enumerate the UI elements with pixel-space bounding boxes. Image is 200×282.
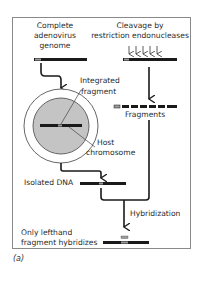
hybridization-result-label: Only lefthand fragment hybridizes	[21, 228, 97, 247]
isolated-dna-label: Isolated DNA	[24, 178, 74, 187]
complete-genome-label: Complete adenovirus genome	[34, 21, 76, 50]
integration-arrow	[41, 63, 61, 88]
hybridization-result-label-line2: fragment hybridizes	[21, 238, 97, 247]
restriction-fragments	[114, 105, 177, 108]
complete-genome-label-line2: adenovirus	[34, 31, 76, 40]
complete-genome-label-line3: genome	[39, 41, 70, 50]
integrated-fragment-label: Integrated fragment	[80, 76, 120, 96]
isolated-dna-bar	[80, 182, 126, 185]
hybridization-result-label-line1: Only lefthand	[21, 228, 72, 237]
cleavage-label-line1: Cleavage by	[116, 21, 164, 30]
adenovirus-genome-bar	[34, 58, 87, 61]
host-chromosome-label-line1: Host	[97, 138, 114, 147]
hybridized-dna-bar	[103, 236, 149, 244]
integrated-fragment-segment	[58, 125, 62, 127]
isolated-dna-to-hybridization-line	[101, 188, 124, 200]
integrated-fragment-label-line2: fragment	[81, 87, 116, 96]
fragments-label: Fragments	[125, 110, 165, 119]
cleavage-label-line2: restriction endonucleases	[91, 31, 189, 40]
cleaved-genome-bar	[123, 58, 177, 61]
figure-caption: (a)	[13, 254, 24, 263]
cleavage-label: Cleavage by restriction endonucleases	[91, 21, 189, 40]
restriction-site-arrows	[129, 46, 157, 54]
complete-genome-label-line1: Complete	[37, 21, 74, 30]
integrated-fragment-label-line1: Integrated	[80, 76, 120, 85]
fragments-to-hybridization-line	[124, 120, 149, 200]
host-chromosome-label-line2: chromosome	[86, 148, 136, 157]
hybridization-label: Hybridization	[130, 209, 181, 218]
isolation-arrow	[61, 163, 101, 178]
adenovirus-hybridization-diagram: Complete adenovirus genome Cleavage by r…	[0, 0, 200, 282]
